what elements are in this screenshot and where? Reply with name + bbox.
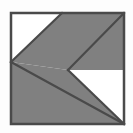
abstract-k-figure [0, 0, 133, 133]
figure-container: Abstract K Shape Square outlined panel c… [0, 0, 133, 133]
